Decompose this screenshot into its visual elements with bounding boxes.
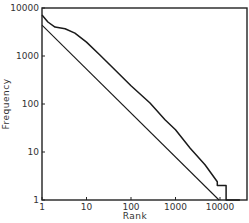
y-tick-label: 10000 [10, 3, 39, 13]
x-tick-label: 10 [81, 202, 93, 212]
chart: 110100100010000 110100100010000 Rank Fre… [0, 0, 249, 223]
y-tick-label: 1000 [16, 51, 39, 61]
y-tick-label: 1 [33, 195, 39, 205]
x-tick-label: 1 [39, 202, 45, 212]
y-axis: 110100100010000 [10, 3, 45, 205]
observed-line [42, 15, 240, 200]
y-tick-label: 10 [28, 147, 40, 157]
plot-frame [42, 8, 247, 200]
y-axis-title: Frequency [1, 78, 11, 129]
x-tick-label: 1000 [164, 202, 187, 212]
x-axis-title: Rank [123, 211, 148, 221]
reference-line [42, 25, 219, 200]
x-axis: 110100100010000 [39, 197, 234, 212]
y-tick-label: 100 [22, 99, 39, 109]
x-tick-label: 10000 [206, 202, 235, 212]
